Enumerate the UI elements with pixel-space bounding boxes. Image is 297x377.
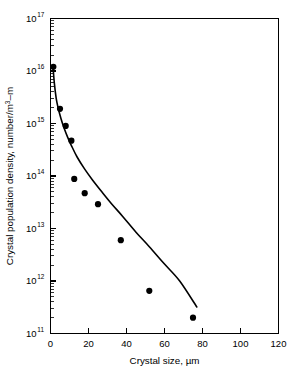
y-tick-exponent: 11	[37, 326, 44, 333]
y-tick-exponent: 13	[37, 221, 45, 228]
x-tick-label-120: 120	[271, 338, 287, 349]
data-point-3	[68, 138, 74, 144]
crystal-population-density-chart: 1011101210131014101510161017 02040608010…	[0, 0, 297, 377]
data-point-6	[95, 201, 101, 207]
y-tick-exponent: 16	[37, 63, 45, 70]
y-tick-mantissa: 10	[26, 275, 37, 286]
y-tick-exponent: 12	[37, 273, 45, 280]
data-point-7	[118, 237, 124, 243]
chart-figure: 1011101210131014101510161017 02040608010…	[0, 0, 297, 377]
y-tick-mantissa: 10	[26, 328, 37, 339]
y-tick-mantissa: 10	[26, 223, 37, 234]
y-tick-mantissa: 10	[26, 65, 37, 76]
data-point-5	[82, 190, 88, 196]
y-tick-exponent: 14	[37, 168, 45, 175]
y-tick-mantissa: 10	[26, 170, 37, 181]
x-tick-label-20: 20	[83, 338, 94, 349]
x-axis-title-text: Crystal size, µm	[130, 355, 200, 366]
x-tick-label-40: 40	[121, 338, 132, 349]
x-tick-label-80: 80	[197, 338, 208, 349]
x-axis-title: Crystal size, µm	[130, 355, 200, 366]
data-point-8	[146, 288, 152, 294]
x-tick-label-60: 60	[159, 338, 170, 349]
data-point-4	[71, 176, 77, 182]
data-point-0	[50, 64, 56, 70]
data-point-1	[57, 106, 63, 112]
y-axis-title-group: Crystal population density, number/m3–m	[4, 87, 15, 265]
x-tick-label-0: 0	[48, 338, 53, 349]
y-tick-mantissa: 10	[26, 118, 37, 129]
data-point-2	[63, 123, 69, 129]
chart-background	[0, 0, 297, 377]
data-point-9	[190, 315, 196, 321]
y-axis-title: Crystal population density, number/m3–m	[4, 87, 15, 265]
y-tick-mantissa: 10	[26, 13, 37, 24]
x-tick-label-100: 100	[233, 338, 249, 349]
y-tick-exponent: 15	[37, 116, 45, 123]
y-axis-title-text: Crystal population density, number/m3–m	[4, 87, 15, 265]
y-tick-exponent: 17	[37, 11, 45, 18]
